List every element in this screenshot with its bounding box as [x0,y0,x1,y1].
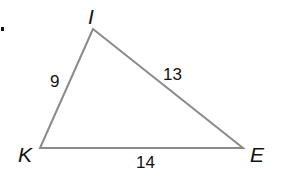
bullet-dot [1,27,4,31]
side-label-IE: 13 [163,65,182,84]
triangle-IKE [40,29,243,148]
triangle-diagram: I K E 9 13 14 [0,0,281,178]
vertex-label-E: E [250,143,265,166]
side-label-KE: 14 [136,153,155,172]
side-label-IK: 9 [50,72,59,91]
vertex-label-K: K [18,143,33,166]
vertex-label-I: I [88,5,94,28]
